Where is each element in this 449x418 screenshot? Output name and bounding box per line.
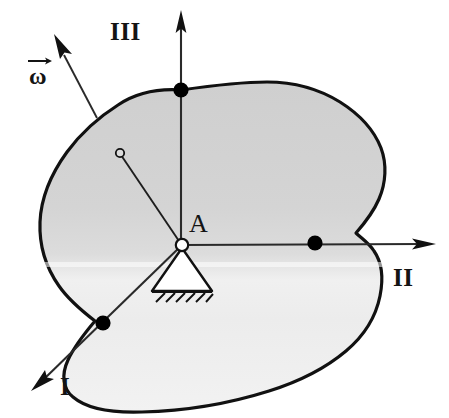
marker-axis-i-boundary	[95, 315, 110, 330]
axis-iii-label: III	[110, 19, 141, 44]
pivot-point-label: A	[189, 211, 208, 237]
rigid-body-outline	[40, 82, 385, 412]
axis-i-label: I	[60, 374, 70, 399]
angular-velocity-label-group: ω	[27, 54, 61, 90]
marker-center-of-mass	[116, 149, 124, 157]
figure-canvas	[0, 0, 449, 418]
scan-band-artifact	[40, 262, 385, 267]
angular-velocity-label: ω	[29, 64, 47, 88]
omega-vector-line	[64, 55, 97, 118]
marker-axis-ii-boundary	[307, 235, 322, 250]
axis-ii-label: II	[393, 265, 413, 290]
marker-axis-iii-boundary	[173, 82, 188, 97]
marker-pivot-a	[176, 239, 188, 251]
rigid-body-rotation-figure: III II I A ω	[0, 0, 449, 418]
axis-ii-line	[182, 244, 423, 245]
